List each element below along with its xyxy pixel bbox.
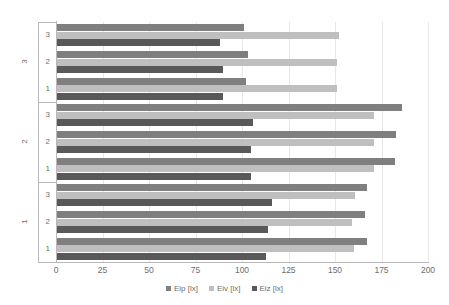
x-tick-label: 25 xyxy=(88,265,118,275)
y-tick-label: 1 xyxy=(34,244,50,253)
y-group-separator xyxy=(38,262,56,263)
bar-eip xyxy=(56,158,395,165)
y-group-label: 3 xyxy=(20,56,29,68)
bar-eip xyxy=(56,238,367,245)
bar-eip xyxy=(56,211,365,218)
y-tick-label: 3 xyxy=(34,30,50,39)
y-group-separator xyxy=(38,182,56,183)
gridline xyxy=(382,22,383,262)
legend-label: Eiv [lx] xyxy=(217,284,241,293)
bar-eiz xyxy=(56,173,251,180)
bar-eiv xyxy=(56,165,374,172)
legend-swatch-icon xyxy=(252,286,257,291)
legend-label: Eiz [lx] xyxy=(260,284,284,293)
y-group-bracket xyxy=(38,22,39,102)
bar-eiv xyxy=(56,245,354,252)
y-tick-label: 2 xyxy=(34,217,50,226)
bar-eiz xyxy=(56,39,220,46)
y-group-separator xyxy=(38,22,56,23)
x-tick-label: 125 xyxy=(274,265,304,275)
x-tick-label: 75 xyxy=(181,265,211,275)
y-group-bracket xyxy=(38,182,39,262)
y-tick-label: 3 xyxy=(34,110,50,119)
bar-eip xyxy=(56,24,244,31)
bar-eip xyxy=(56,104,402,111)
bar-eiv xyxy=(56,112,374,119)
y-group-bracket xyxy=(38,102,39,182)
gridline xyxy=(428,22,429,262)
x-tick-label: 175 xyxy=(367,265,397,275)
bar-eiz xyxy=(56,253,266,260)
x-tick-label: 100 xyxy=(227,265,257,275)
y-tick-label: 3 xyxy=(34,190,50,199)
y-tick-label: 1 xyxy=(34,164,50,173)
y-tick-label: 1 xyxy=(34,84,50,93)
bar-eiv xyxy=(56,85,337,92)
bar-eip xyxy=(56,51,248,58)
plot-area xyxy=(56,22,428,262)
legend-swatch-icon xyxy=(209,286,214,291)
bar-eiz xyxy=(56,66,223,73)
y-tick-label: 2 xyxy=(34,57,50,66)
bar-eip xyxy=(56,184,367,191)
legend-label: Eip [lx] xyxy=(174,284,198,293)
bar-eiz xyxy=(56,119,253,126)
bar-eiz xyxy=(56,199,272,206)
y-group-label: 2 xyxy=(20,136,29,148)
bar-eiv xyxy=(56,59,337,66)
bar-eiv xyxy=(56,192,355,199)
x-tick-label: 150 xyxy=(320,265,350,275)
bar-chart: 321332123211 0255075100125150175200 Eip … xyxy=(0,0,449,305)
legend-item[interactable]: Eip [lx] xyxy=(166,284,198,293)
x-axis-line xyxy=(56,262,429,263)
x-tick-label: 200 xyxy=(413,265,443,275)
bar-eiv xyxy=(56,32,339,39)
chart-legend: Eip [lx]Eiv [lx]Eiz [lx] xyxy=(0,284,449,293)
legend-item[interactable]: Eiz [lx] xyxy=(252,284,284,293)
bar-eip xyxy=(56,78,246,85)
bar-eiz xyxy=(56,226,268,233)
y-group-separator xyxy=(38,102,56,103)
x-tick-label: 0 xyxy=(41,265,71,275)
x-tick-label: 50 xyxy=(134,265,164,275)
bar-eiv xyxy=(56,139,374,146)
y-axis-line xyxy=(56,21,57,263)
bar-eiv xyxy=(56,219,352,226)
y-tick-label: 2 xyxy=(34,137,50,146)
y-group-label: 1 xyxy=(20,216,29,228)
legend-item[interactable]: Eiv [lx] xyxy=(209,284,241,293)
bar-eip xyxy=(56,131,396,138)
bar-eiz xyxy=(56,93,223,100)
bar-eiz xyxy=(56,146,251,153)
legend-swatch-icon xyxy=(166,286,171,291)
